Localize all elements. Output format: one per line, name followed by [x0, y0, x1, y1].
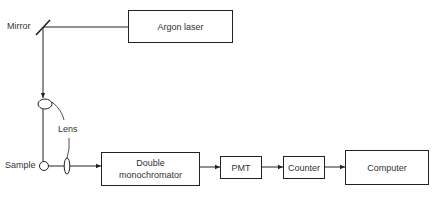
sample-icon: [40, 162, 49, 171]
monochromator-label-line2: monochromator: [119, 169, 182, 181]
counter-box: Counter: [283, 156, 325, 179]
computer-box: Computer: [345, 150, 429, 185]
pmt-box: PMT: [220, 156, 262, 179]
lens-leader-top: [52, 102, 64, 120]
monochromator-label-line1: Double: [136, 157, 165, 169]
computer-label: Computer: [367, 162, 407, 174]
pmt-label: PMT: [232, 162, 251, 174]
focusing-lens-icon: [38, 99, 52, 109]
counter-label: Counter: [288, 162, 320, 174]
argon-laser-box: Argon laser: [128, 10, 233, 43]
double-monochromator-box: Double monochromator: [101, 152, 200, 186]
lens-leader-bottom: [67, 138, 69, 158]
sample-label: Sample: [5, 160, 36, 170]
lens-label: Lens: [58, 124, 78, 134]
mirror-label: Mirror: [7, 21, 31, 31]
collection-lens-icon: [64, 158, 70, 174]
argon-laser-label: Argon laser: [157, 21, 203, 33]
raman-spectrometer-diagram: Mirror Lens Sample Argon laser Double mo…: [0, 0, 436, 197]
